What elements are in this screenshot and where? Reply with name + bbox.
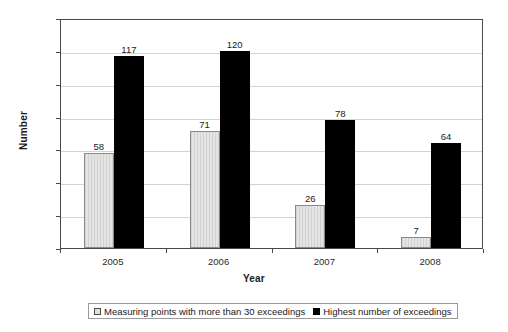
chart-legend: Measuring points with more than 30 excee… bbox=[88, 303, 458, 319]
bar-2008-series-1 bbox=[431, 143, 461, 248]
x-tick-mark bbox=[483, 249, 484, 253]
legend-entry-0: Measuring points with more than 30 excee… bbox=[94, 306, 305, 317]
x-tick-mark bbox=[377, 249, 378, 253]
bar-2005-series-1 bbox=[114, 56, 144, 248]
bar-chart-figure: Number 020406080100120140 58117711202678… bbox=[0, 0, 508, 332]
plot-area: 58117711202678764 bbox=[60, 19, 483, 249]
legend-label: Measuring points with more than 30 excee… bbox=[104, 306, 305, 317]
x-tick-mark bbox=[60, 249, 61, 253]
bar-2006-series-0 bbox=[190, 131, 220, 248]
legend-entry-1: Highest number of exceedings bbox=[313, 306, 451, 317]
bar-2008-series-0 bbox=[401, 237, 431, 249]
legend-label: Highest number of exceedings bbox=[323, 306, 451, 317]
x-tick-label-2005: 2005 bbox=[78, 256, 148, 267]
legend-swatch-icon bbox=[94, 308, 101, 315]
x-tick-label-2006: 2006 bbox=[184, 256, 254, 267]
y-axis-title: Number bbox=[18, 91, 29, 171]
x-tick-mark bbox=[166, 249, 167, 253]
x-tick-mark bbox=[272, 249, 273, 253]
bar-value-label: 120 bbox=[213, 40, 257, 50]
bar-2005-series-0 bbox=[84, 153, 114, 248]
bar-2006-series-1 bbox=[220, 51, 250, 248]
x-axis-title: Year bbox=[0, 273, 508, 284]
legend-swatch-icon bbox=[313, 308, 320, 315]
bar-2007-series-1 bbox=[325, 120, 355, 248]
x-tick-label-2008: 2008 bbox=[395, 256, 465, 267]
bar-value-label: 64 bbox=[424, 132, 468, 142]
x-tick-label-2007: 2007 bbox=[289, 256, 359, 267]
bar-2007-series-0 bbox=[295, 205, 325, 248]
bar-value-label: 117 bbox=[107, 45, 151, 55]
bar-value-label: 78 bbox=[318, 109, 362, 119]
